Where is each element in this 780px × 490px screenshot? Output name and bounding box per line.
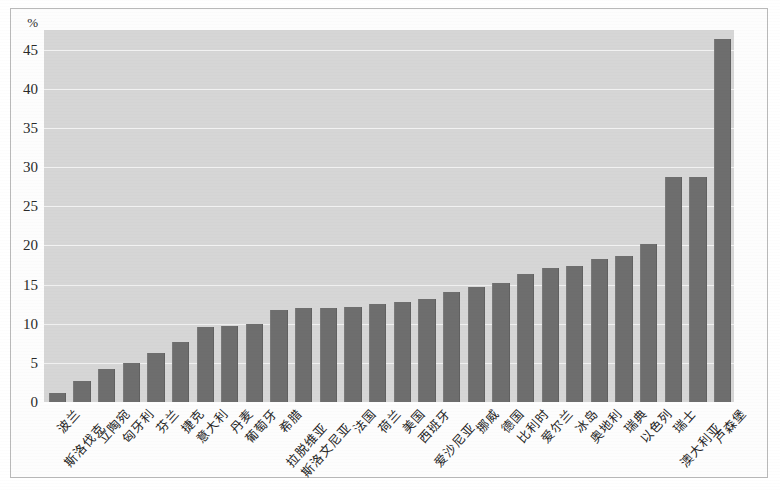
bar xyxy=(714,39,731,402)
y-tick-label-30: 30 xyxy=(23,160,38,175)
y-tick-label-45: 45 xyxy=(23,42,38,57)
bar xyxy=(591,259,608,402)
bar xyxy=(344,307,361,402)
y-tick-label-0: 0 xyxy=(31,395,39,410)
y-tick-label-5: 5 xyxy=(31,355,39,370)
bar xyxy=(665,177,682,402)
bar xyxy=(49,393,66,402)
bar xyxy=(492,283,509,402)
bar xyxy=(443,292,460,402)
bar xyxy=(615,256,632,402)
bar xyxy=(147,353,164,402)
bar xyxy=(172,342,189,402)
plot-area xyxy=(44,30,734,402)
bar xyxy=(123,363,140,402)
x-tick-label: 波兰 xyxy=(52,404,84,437)
bar xyxy=(73,381,90,402)
bar xyxy=(689,177,706,402)
bar xyxy=(468,287,485,402)
bar xyxy=(566,266,583,402)
bar xyxy=(418,299,435,402)
bar xyxy=(221,326,238,402)
y-tick-label-25: 25 xyxy=(23,199,38,214)
y-tick-label-10: 10 xyxy=(23,316,38,331)
bar xyxy=(542,268,559,402)
x-tick-label: 希腊 xyxy=(274,404,306,437)
bar xyxy=(246,324,263,402)
bar xyxy=(295,308,312,402)
bar xyxy=(270,310,287,402)
bar xyxy=(320,308,337,402)
x-tick-label: 瑞士 xyxy=(668,404,700,437)
y-axis-unit-label: % xyxy=(27,16,38,29)
bars-layer xyxy=(44,30,734,402)
y-tick-label-20: 20 xyxy=(23,238,38,253)
bar xyxy=(517,274,534,402)
y-tick-label-40: 40 xyxy=(23,81,38,96)
y-axis: % 051015202530354045 xyxy=(0,30,44,402)
bar xyxy=(394,302,411,402)
bar xyxy=(369,304,386,402)
bar-chart: % 051015202530354045 波兰斯洛伐克立陶宛匈牙利芬兰捷克意大利… xyxy=(0,0,780,490)
x-axis-labels: 波兰斯洛伐克立陶宛匈牙利芬兰捷克意大利丹麦葡萄牙希腊拉脱维亚斯洛文尼亚法国荷兰美… xyxy=(44,404,734,490)
bar xyxy=(640,244,657,402)
y-tick-label-15: 15 xyxy=(23,277,38,292)
bar xyxy=(197,327,214,402)
y-tick-label-35: 35 xyxy=(23,120,38,135)
bar xyxy=(98,369,115,402)
